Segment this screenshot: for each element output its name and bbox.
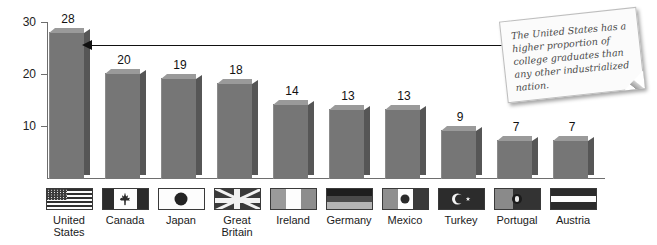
- bar-chart: 30 20 10 28 20 19 18 14 13 13: [0, 0, 657, 245]
- y-axis-label-30: 30: [6, 16, 36, 28]
- bar-value: 7: [494, 121, 538, 133]
- us-flag-icon: [46, 188, 93, 210]
- bar-shape: [497, 140, 532, 179]
- axis-item-germany: Germany: [321, 188, 377, 226]
- axis-item-great-britain: Great Britain: [209, 188, 265, 238]
- japan-flag-icon: [158, 188, 205, 210]
- sticky-note-callout: The United States has a higher proportio…: [499, 7, 645, 103]
- country-label: Great: [209, 214, 265, 226]
- germany-flag-icon: [326, 188, 373, 210]
- country-label: United: [41, 214, 97, 226]
- bar-value: 9: [438, 111, 482, 123]
- axis-item-mexico: Mexico: [377, 188, 433, 226]
- bar-value: 20: [102, 54, 146, 66]
- bar-shape: [49, 32, 84, 179]
- callout-text: The United States has a higher proportio…: [511, 19, 634, 94]
- bar-value: 7: [550, 121, 594, 133]
- mexico-flag-icon: [382, 188, 429, 210]
- callout-arrow-head: [82, 40, 92, 50]
- country-axis: United States Canada Japan Great Britain…: [47, 188, 605, 244]
- bar-value: 18: [214, 64, 258, 76]
- axis-item-ireland: Ireland: [265, 188, 321, 226]
- bar-value: 13: [326, 90, 370, 102]
- bar-shape: [553, 140, 588, 179]
- axis-item-canada: Canada: [97, 188, 153, 226]
- axis-item-turkey: Turkey: [433, 188, 489, 226]
- great-britain-flag-icon: [214, 188, 261, 210]
- turkey-flag-icon: [438, 188, 485, 210]
- ireland-flag-icon: [270, 188, 317, 210]
- bar-portugal[interactable]: 7: [497, 140, 537, 178]
- bar-japan[interactable]: 19: [161, 78, 201, 178]
- canada-flag-icon: [102, 188, 149, 210]
- bar-shape: [441, 130, 476, 179]
- bar-turkey[interactable]: 9: [441, 130, 481, 178]
- bar-great-britain[interactable]: 18: [217, 83, 257, 178]
- bar-united-states[interactable]: 28: [49, 32, 89, 178]
- bar-germany[interactable]: 13: [329, 109, 369, 178]
- bar-ireland[interactable]: 14: [273, 104, 313, 178]
- country-label-line2: States: [41, 226, 97, 238]
- bar-canada[interactable]: 20: [105, 73, 145, 178]
- bar-value: 19: [158, 59, 202, 71]
- country-label: Mexico: [377, 214, 433, 226]
- axis-item-austria: Austria: [545, 188, 601, 226]
- country-label: Turkey: [433, 214, 489, 226]
- austria-flag-icon: [550, 188, 597, 210]
- country-label: Germany: [321, 214, 377, 226]
- bar-value: 14: [270, 85, 314, 97]
- axis-item-japan: Japan: [153, 188, 209, 226]
- country-label: Canada: [97, 214, 153, 226]
- bar-value: 28: [46, 13, 90, 25]
- bar-shape: [329, 109, 364, 179]
- bar-austria[interactable]: 7: [553, 140, 593, 178]
- bar-shape: [217, 83, 252, 179]
- axis-item-united-states: United States: [41, 188, 97, 238]
- bar-shape: [385, 109, 420, 179]
- country-label: Austria: [545, 214, 601, 226]
- bar-shape: [161, 78, 196, 179]
- axis-item-portugal: Portugal: [489, 188, 545, 226]
- country-label: Ireland: [265, 214, 321, 226]
- y-axis-label-20: 20: [6, 68, 36, 80]
- callout-arrow-line: [88, 45, 508, 46]
- bar-shape: [273, 104, 308, 179]
- country-label: Portugal: [489, 214, 545, 226]
- bar-mexico[interactable]: 13: [385, 109, 425, 178]
- bar-shape: [105, 73, 140, 179]
- country-label: Japan: [153, 214, 209, 226]
- country-label-line2: Britain: [209, 226, 265, 238]
- y-axis-label-10: 10: [6, 120, 36, 132]
- bar-value: 13: [382, 90, 426, 102]
- portugal-flag-icon: [494, 188, 541, 210]
